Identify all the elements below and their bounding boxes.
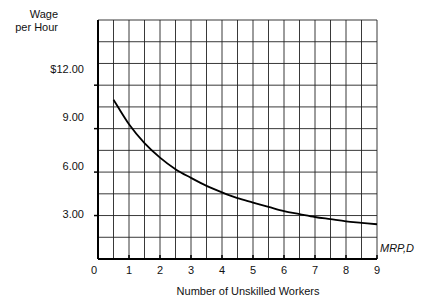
grid xyxy=(98,20,377,259)
x-tick-7: 7 xyxy=(305,264,325,276)
x-axis-label: Number of Unskilled Workers xyxy=(118,285,378,297)
x-tick-0: 0 xyxy=(84,264,104,276)
series-label-mrp-d: MRP,D xyxy=(380,242,414,254)
x-tick-3: 3 xyxy=(181,264,201,276)
x-tick-8: 8 xyxy=(336,264,356,276)
x-tick-4: 4 xyxy=(212,264,232,276)
x-tick-1: 1 xyxy=(119,264,139,276)
x-tick-9: 9 xyxy=(367,264,387,276)
x-tick-6: 6 xyxy=(274,264,294,276)
chart-plot xyxy=(0,0,428,306)
x-tick-5: 5 xyxy=(243,264,263,276)
mrp-demand-curve xyxy=(114,100,378,225)
x-tick-2: 2 xyxy=(150,264,170,276)
